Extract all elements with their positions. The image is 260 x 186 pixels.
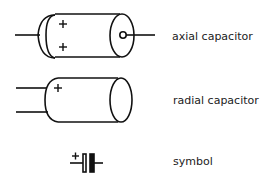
capacitor-symbol-drawing: [70, 153, 103, 173]
radial-capacitor-label: radial capacitor: [173, 94, 259, 107]
radial-capacitor-drawing: [16, 78, 132, 122]
symbol-label: symbol: [173, 155, 213, 168]
axial-capacitor-label: axial capacitor: [172, 30, 253, 43]
axial-capacitor-drawing: [15, 14, 155, 58]
capacitor-diagram: [0, 0, 260, 186]
